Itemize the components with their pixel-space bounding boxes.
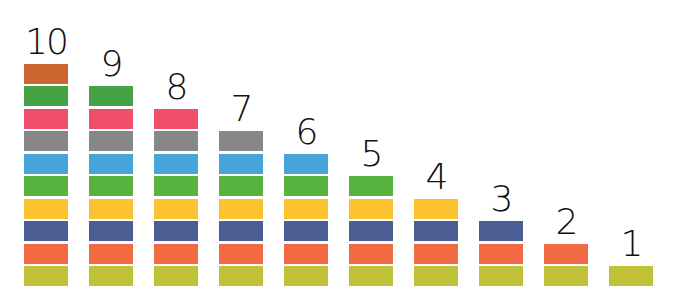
block-pink <box>89 109 133 129</box>
block-orange <box>24 244 68 264</box>
block-olive <box>89 266 133 286</box>
block-pink <box>24 109 68 129</box>
tower-5: 5 <box>349 0 393 301</box>
tower-1: 1 <box>609 0 653 301</box>
block-orange <box>154 244 198 264</box>
block-yellow <box>284 199 328 219</box>
block-green <box>349 176 393 196</box>
block-olive <box>349 266 393 286</box>
block-yellow <box>414 199 458 219</box>
tower-number-label: 8 <box>154 69 198 105</box>
block-olive <box>414 266 458 286</box>
tower-4: 4 <box>414 0 458 301</box>
tower-number-label: 4 <box>414 159 458 195</box>
block-navy <box>154 221 198 241</box>
block-green2 <box>24 86 68 106</box>
tower-7: 7 <box>219 0 263 301</box>
block-green <box>24 176 68 196</box>
block-olive <box>609 266 653 286</box>
block-gray <box>24 131 68 151</box>
tower-10: 10 <box>24 0 68 301</box>
tower-8: 8 <box>154 0 198 301</box>
tower-number-label: 7 <box>219 91 263 127</box>
block-green2 <box>89 86 133 106</box>
block-olive <box>479 266 523 286</box>
block-blue <box>24 154 68 174</box>
block-navy <box>219 221 263 241</box>
tower-3: 3 <box>479 0 523 301</box>
block-gray <box>154 131 198 151</box>
block-yellow <box>89 199 133 219</box>
block-olive <box>284 266 328 286</box>
block-olive <box>154 266 198 286</box>
block-orange <box>349 244 393 264</box>
block-orange <box>284 244 328 264</box>
block-olive <box>544 266 588 286</box>
block-olive <box>24 266 68 286</box>
block-yellow <box>219 199 263 219</box>
block-orange <box>89 244 133 264</box>
block-orange <box>414 244 458 264</box>
block-navy <box>414 221 458 241</box>
tower-number-label: 5 <box>349 136 393 172</box>
block-pink <box>154 109 198 129</box>
block-orange <box>544 244 588 264</box>
tower-number-label: 1 <box>609 226 653 262</box>
block-blue <box>89 154 133 174</box>
block-green <box>154 176 198 196</box>
block-yellow <box>24 199 68 219</box>
block-blue <box>284 154 328 174</box>
block-olive <box>219 266 263 286</box>
block-gray <box>219 131 263 151</box>
tower-number-label: 3 <box>479 181 523 217</box>
tower-2: 2 <box>544 0 588 301</box>
block-brown <box>24 64 68 84</box>
block-navy <box>89 221 133 241</box>
block-blue <box>219 154 263 174</box>
block-yellow <box>154 199 198 219</box>
tower-number-label: 9 <box>89 46 133 82</box>
number-towers-diagram: 10987654321 <box>0 0 673 301</box>
tower-number-label: 2 <box>544 204 588 240</box>
block-green <box>89 176 133 196</box>
tower-number-label: 6 <box>284 114 328 150</box>
tower-6: 6 <box>284 0 328 301</box>
block-blue <box>154 154 198 174</box>
block-navy <box>349 221 393 241</box>
block-green <box>284 176 328 196</box>
block-gray <box>89 131 133 151</box>
block-navy <box>24 221 68 241</box>
tower-9: 9 <box>89 0 133 301</box>
block-orange <box>479 244 523 264</box>
block-navy <box>284 221 328 241</box>
block-green <box>219 176 263 196</box>
block-orange <box>219 244 263 264</box>
block-navy <box>479 221 523 241</box>
block-yellow <box>349 199 393 219</box>
tower-number-label: 10 <box>24 24 68 60</box>
